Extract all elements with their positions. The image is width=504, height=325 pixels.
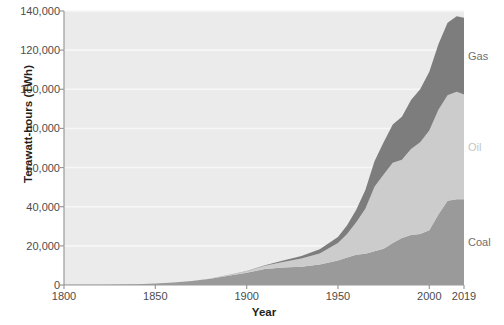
- x-tick-label: 1950: [326, 290, 350, 302]
- x-axis-title: Year: [64, 306, 464, 318]
- series-label-gas: Gas: [468, 50, 488, 62]
- series-label-coal: Coal: [468, 236, 491, 248]
- y-tick-label: 140,000: [2, 5, 60, 17]
- y-tick-label: 20,000: [2, 240, 60, 252]
- series-label-oil: Oil: [468, 141, 481, 153]
- area-chart-plot: [0, 0, 504, 325]
- x-tick-label: 1900: [234, 290, 258, 302]
- y-axis-title: Terawatt-hours (TWh): [22, 44, 34, 204]
- x-tick-label: 1800: [52, 290, 76, 302]
- chart-figure: 020,00040,00060,00080,000100,000120,0001…: [0, 0, 504, 325]
- x-tick-label: 2019: [452, 290, 476, 302]
- x-tick-label: 1850: [143, 290, 167, 302]
- x-tick-label: 2000: [417, 290, 441, 302]
